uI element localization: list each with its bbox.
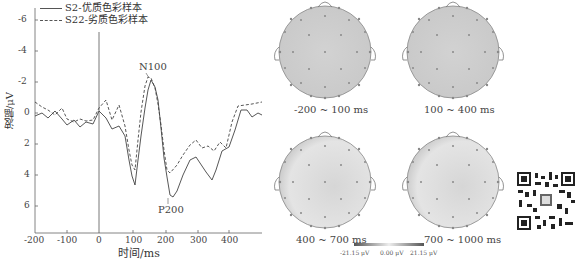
y-tick: 0 xyxy=(24,107,30,117)
series-s22-line xyxy=(35,77,262,173)
solid-line-swatch xyxy=(40,8,62,9)
y-tick: 4 xyxy=(24,169,30,179)
legend-item-s22: S22-劣质色彩样本 xyxy=(40,14,148,26)
y-axis-label: 波幅/μV xyxy=(2,92,17,129)
x-tick: -200 xyxy=(24,235,44,245)
topomap-label: 700 ~ 1000 ms xyxy=(424,234,501,245)
legend-label: S2-优质色彩样本 xyxy=(65,2,142,14)
colorbar-mid-label: 0.00 μV xyxy=(380,249,404,256)
x-tick: 0 xyxy=(96,235,102,245)
x-tick: 300 xyxy=(190,235,207,245)
x-tick: 400 xyxy=(221,235,238,245)
chart-legend: S2-优质色彩样本 S22-劣质色彩样本 xyxy=(40,2,148,26)
erp-plot-area xyxy=(0,0,280,260)
p200-annotation: P200 xyxy=(158,204,184,215)
y-tick: 2 xyxy=(24,138,30,148)
x-tick: -100 xyxy=(57,235,77,245)
legend-label: S22-劣质色彩样本 xyxy=(65,14,148,26)
y-tick: -2 xyxy=(18,76,27,86)
legend-item-s2: S2-优质色彩样本 xyxy=(40,2,148,14)
topomap-3 xyxy=(275,132,376,229)
topomap-label: -200 ~ 100 ms xyxy=(294,104,368,115)
colorbar xyxy=(354,243,424,246)
colorbar-max-label: 21.15 μV xyxy=(410,249,437,256)
y-tick: -6 xyxy=(18,14,27,24)
qr-code xyxy=(515,170,577,232)
x-axis-label: 时间/ms xyxy=(118,244,160,260)
dashed-line-swatch xyxy=(40,20,62,21)
y-tick: -4 xyxy=(18,45,27,55)
topomap-2 xyxy=(403,2,504,99)
colorbar-min-label: -21.15 μV xyxy=(340,249,369,256)
topomap-1 xyxy=(275,2,376,99)
y-tick: 6 xyxy=(24,200,30,210)
topomap-label: 100 ~ 400 ms xyxy=(424,104,495,115)
topomaps xyxy=(270,0,510,240)
topomap-4 xyxy=(403,132,504,229)
n100-annotation: N100 xyxy=(139,61,167,72)
series-s2-line xyxy=(35,80,262,197)
